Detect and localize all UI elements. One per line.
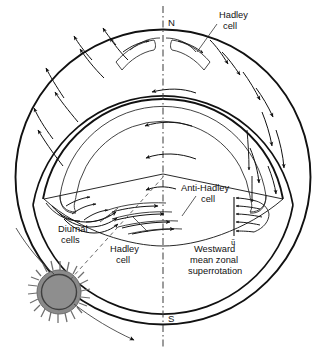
svg-text:Hadley: Hadley bbox=[110, 244, 139, 254]
svg-text:Diurnal: Diurnal bbox=[58, 224, 87, 234]
svg-text:cells: cells bbox=[61, 235, 80, 245]
svg-text:Hadley: Hadley bbox=[219, 10, 248, 20]
hadley-flow-arrows-left bbox=[34, 28, 128, 166]
svg-text:superrotation: superrotation bbox=[188, 266, 242, 276]
hadley-cell-lower-label: Hadley cell bbox=[110, 244, 139, 265]
hadley-flow-arrows-right bbox=[210, 40, 284, 194]
svg-text:cell: cell bbox=[223, 21, 237, 31]
sun-icon bbox=[28, 261, 90, 323]
lower-cells-flow-center bbox=[112, 206, 174, 234]
hadley-cell-top-label: Hadley cell bbox=[219, 10, 248, 31]
south-pole-label: S bbox=[168, 313, 174, 324]
svg-text:Westward: Westward bbox=[194, 244, 235, 254]
svg-text:cell: cell bbox=[116, 255, 130, 265]
zonal-wind-symbol-label: ū bbox=[231, 237, 236, 247]
diagram-canvas: N S Hadley cell Anti-Hadley cell Diurnal… bbox=[0, 0, 324, 353]
diurnal-cells-upper-arrows bbox=[66, 197, 108, 220]
anti-hadley-flow-arrow bbox=[146, 187, 176, 190]
circulation-diagram: N S Hadley cell Anti-Hadley cell Diurnal… bbox=[0, 0, 324, 353]
anti-hadley-cell-label: Anti-Hadley cell bbox=[181, 183, 229, 204]
label-leader-lines bbox=[100, 24, 217, 232]
svg-text:mean zonal: mean zonal bbox=[190, 255, 238, 265]
svg-text:Anti-Hadley: Anti-Hadley bbox=[181, 183, 229, 193]
north-pole-label: N bbox=[168, 17, 175, 28]
svg-text:cell: cell bbox=[201, 194, 215, 204]
diurnal-cells-label: Diurnal cells bbox=[58, 224, 87, 245]
superrotation-label: Westward mean zonal superrotation bbox=[188, 244, 242, 276]
